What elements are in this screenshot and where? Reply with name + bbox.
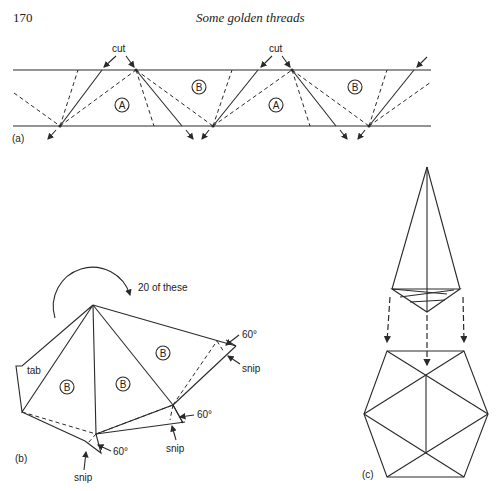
panel-label-a: (a) bbox=[12, 133, 24, 144]
figure-a-strip: cut cut A B A B (a) bbox=[12, 43, 431, 144]
figure-canvas: cut cut A B A B (a) 20 of these t bbox=[0, 0, 499, 491]
region-label-b2: B bbox=[352, 82, 359, 93]
figure-b-net: 20 of these tab B B B 60° snip 60° bbox=[15, 267, 261, 483]
count-label: 20 of these bbox=[138, 282, 188, 293]
figure-c-assembly: (c) bbox=[362, 167, 488, 480]
angle-label-1: 60° bbox=[242, 329, 257, 340]
snip-label-1: snip bbox=[242, 363, 261, 374]
angle-label-2: 60° bbox=[197, 409, 212, 420]
region-label-b4: B bbox=[120, 379, 127, 390]
region-label-a1: A bbox=[119, 100, 126, 111]
region-label-b3: B bbox=[64, 382, 71, 393]
region-label-b1: B bbox=[196, 82, 203, 93]
rotation-arrow-icon bbox=[53, 267, 130, 318]
snip-label-3: snip bbox=[74, 472, 93, 483]
region-label-a2: A bbox=[273, 100, 280, 111]
cut-label-2: cut bbox=[269, 43, 283, 54]
region-label-b5: B bbox=[160, 348, 167, 359]
panel-label-b: (b) bbox=[15, 453, 27, 464]
angle-label-3: 60° bbox=[113, 446, 128, 457]
cut-label-1: cut bbox=[112, 43, 126, 54]
snip-label-2: snip bbox=[166, 443, 185, 454]
panel-label-c: (c) bbox=[362, 469, 374, 480]
tab-label: tab bbox=[27, 365, 41, 376]
